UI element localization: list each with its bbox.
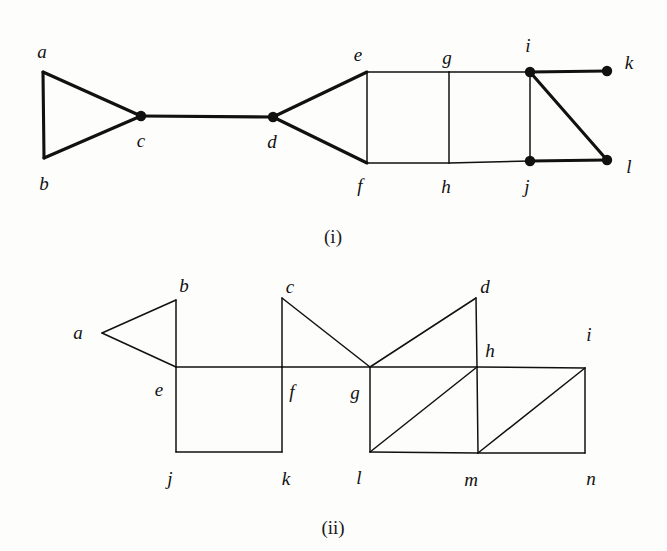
vertex-label-e: e	[155, 380, 163, 399]
vertex-label-h: h	[441, 177, 451, 196]
graph-edge-l-m	[370, 452, 478, 453]
vertex-label-a: a	[37, 42, 47, 61]
figure-root: abcdefghijkl(i)abcdefghijklmn(ii)	[0, 0, 667, 551]
graph-vertex-dot-c	[136, 111, 146, 121]
graph-edge-a-e	[102, 333, 176, 367]
vertex-label-l: l	[356, 468, 361, 487]
graph-edge-m-i	[478, 368, 585, 453]
panel-i-edges	[43, 71, 607, 163]
graph-vertex-dot-k	[602, 66, 612, 76]
vertex-label-n: n	[586, 469, 596, 488]
graph-edge-a-b	[43, 72, 44, 158]
graph-edge-h-m	[477, 367, 478, 453]
graph-edge-d-h	[476, 298, 477, 367]
graph-edge-i-l	[530, 72, 607, 160]
graph-edge-d-g	[370, 298, 476, 367]
panel-ii-edges	[102, 298, 585, 453]
vertex-label-d: d	[480, 277, 490, 296]
panel-caption-panel-ii: (ii)	[321, 518, 344, 537]
vertex-label-i: i	[586, 325, 591, 344]
graph-edge-d-f	[273, 117, 367, 163]
vertex-label-c: c	[137, 131, 145, 150]
graph-vertex-dot-j	[525, 156, 535, 166]
graph-edge-d-e	[273, 72, 367, 117]
vertex-label-j: j	[524, 177, 529, 196]
graph-edge-j-l	[530, 160, 607, 161]
vertex-label-m: m	[464, 470, 478, 489]
vertex-label-l: l	[626, 157, 631, 176]
vertex-label-d: d	[267, 132, 277, 151]
graph-edge-b-c	[44, 116, 141, 158]
graph-edge-c-g	[282, 298, 370, 367]
vertex-label-k: k	[625, 53, 633, 72]
graph-edge-a-c	[43, 72, 141, 116]
vertex-label-h: h	[485, 341, 495, 360]
vertex-label-e: e	[354, 45, 362, 64]
vertex-label-g: g	[350, 383, 360, 402]
vertex-label-b: b	[39, 174, 49, 193]
vertex-label-f: f	[289, 382, 294, 401]
graph-vertex-dot-l	[602, 155, 612, 165]
vertex-label-a: a	[73, 323, 83, 342]
vertex-label-b: b	[179, 276, 189, 295]
vertex-label-c: c	[286, 277, 294, 296]
vertex-label-g: g	[442, 48, 452, 67]
graph-edge-i-k	[530, 71, 607, 72]
vertex-label-k: k	[282, 469, 290, 488]
vertex-label-j: j	[167, 469, 172, 488]
graph-vertex-dot-d	[268, 112, 278, 122]
graph-vertex-dot-i	[525, 67, 535, 77]
graph-edge-c-d	[141, 116, 273, 117]
graph-edge-l-h	[370, 367, 477, 452]
panel-caption-panel-i: (i)	[324, 227, 342, 246]
graph-edge-h-j	[449, 161, 530, 163]
graph-edge-h-i	[477, 367, 585, 368]
graph-edge-a-b	[102, 300, 176, 333]
graph-drawing-canvas	[0, 0, 667, 551]
vertex-label-i: i	[525, 36, 530, 55]
vertex-label-f: f	[357, 176, 362, 195]
